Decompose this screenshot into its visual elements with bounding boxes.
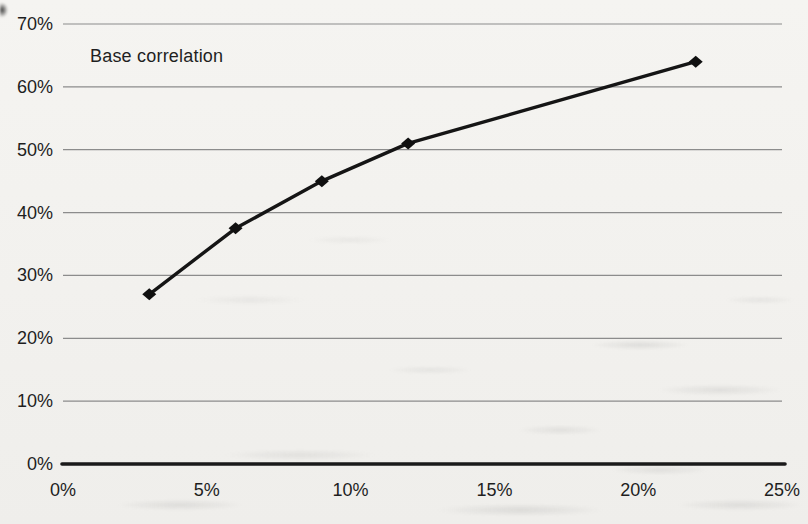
x-tick-label-10: 10%: [333, 480, 369, 500]
y-tick-label-40: 40%: [17, 203, 53, 223]
base-correlation-line-chart: 0%10%20%30%40%50%60%70%0%5%10%15%20%25% …: [0, 0, 808, 524]
series-line-base-correlation: [149, 62, 695, 295]
x-tick-label-5: 5%: [194, 480, 220, 500]
x-tick-label-20: 20%: [620, 480, 656, 500]
y-tick-label-10: 10%: [17, 391, 53, 411]
scanned-book-page: 0%10%20%30%40%50%60%70%0%5%10%15%20%25% …: [0, 0, 808, 524]
y-tick-label-0: 0%: [27, 454, 53, 474]
x-tick-label-25: 25%: [764, 480, 800, 500]
data-point-marker-12: [401, 137, 415, 149]
y-tick-label-50: 50%: [17, 140, 53, 160]
y-tick-label-60: 60%: [17, 77, 53, 97]
y-tick-label-70: 70%: [17, 14, 53, 34]
data-point-marker-22: [689, 56, 703, 68]
chart-canvas: 0%10%20%30%40%50%60%70%0%5%10%15%20%25%: [0, 0, 808, 524]
y-tick-label-20: 20%: [17, 328, 53, 348]
x-tick-label-15: 15%: [476, 480, 512, 500]
chart-annotation-label: Base correlation: [90, 46, 223, 67]
x-tick-label-0: 0%: [50, 480, 76, 500]
y-tick-label-30: 30%: [17, 265, 53, 285]
